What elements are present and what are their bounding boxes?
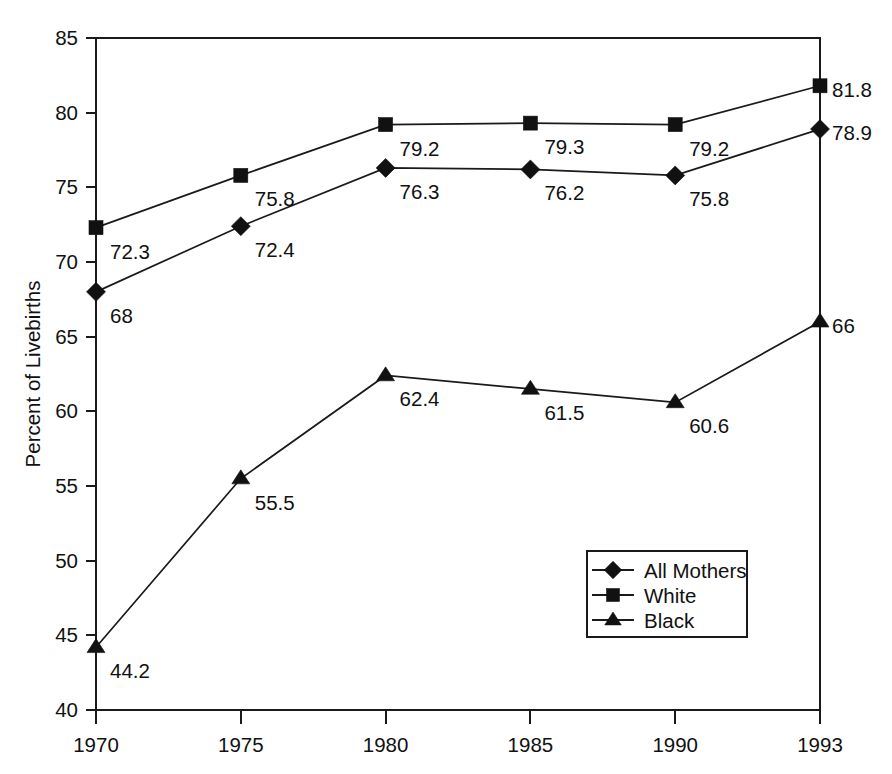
y-tick-label-50: 50 bbox=[55, 549, 78, 572]
point-label: 76.3 bbox=[400, 180, 440, 203]
y-axis-ticks bbox=[86, 38, 96, 710]
y-tick-label-85: 85 bbox=[55, 26, 78, 49]
point-label: 60.6 bbox=[689, 414, 729, 437]
square-marker-icon bbox=[89, 221, 103, 235]
x-tick-label-1990: 1990 bbox=[652, 733, 698, 756]
x-tick-label-1980: 1980 bbox=[363, 733, 409, 756]
diamond-marker-icon bbox=[231, 217, 250, 236]
legend-label-white[interactable]: White bbox=[644, 584, 696, 607]
x-axis-tick-labels: 197019751980198519901993 bbox=[73, 733, 843, 756]
point-label: 81.8 bbox=[832, 78, 872, 101]
point-label: 61.5 bbox=[544, 401, 584, 424]
x-tick-label-1985: 1985 bbox=[508, 733, 554, 756]
y-axis-tick-labels: 85807570656055504540 bbox=[55, 26, 78, 721]
diamond-marker-icon bbox=[376, 158, 395, 177]
line-chart: 85807570656055504540 1970197519801985199… bbox=[0, 0, 892, 774]
point-label: 76.2 bbox=[544, 181, 584, 204]
point-label: 44.2 bbox=[110, 659, 150, 682]
point-label: 78.9 bbox=[832, 121, 872, 144]
y-axis-title: Percent of Livebirths bbox=[21, 281, 44, 468]
square-marker-icon bbox=[813, 79, 827, 93]
chart-legend[interactable]: All MothersWhiteBlack bbox=[587, 551, 747, 637]
triangle-marker-icon bbox=[232, 470, 250, 484]
square-marker-icon bbox=[607, 589, 620, 602]
y-tick-label-65: 65 bbox=[55, 325, 78, 348]
y-tick-label-55: 55 bbox=[55, 474, 78, 497]
square-marker-icon bbox=[379, 118, 393, 132]
x-tick-label-1970: 1970 bbox=[73, 733, 119, 756]
y-tick-label-40: 40 bbox=[55, 698, 78, 721]
y-tick-label-70: 70 bbox=[55, 250, 78, 273]
square-marker-icon bbox=[234, 168, 248, 182]
chart-container: 85807570656055504540 1970197519801985199… bbox=[0, 0, 892, 774]
point-label: 75.8 bbox=[255, 187, 295, 210]
point-label: 75.8 bbox=[689, 187, 729, 210]
legend-label-all-mothers[interactable]: All Mothers bbox=[644, 559, 747, 582]
diamond-marker-icon bbox=[87, 282, 106, 301]
y-tick-label-75: 75 bbox=[55, 175, 78, 198]
x-tick-label-1975: 1975 bbox=[218, 733, 264, 756]
square-marker-icon bbox=[668, 118, 682, 132]
legend-label-black[interactable]: Black bbox=[644, 609, 695, 632]
point-label: 72.4 bbox=[255, 238, 295, 261]
triangle-marker-icon bbox=[521, 380, 539, 394]
x-tick-label-1993: 1993 bbox=[797, 733, 843, 756]
diamond-marker-icon bbox=[811, 120, 830, 139]
y-tick-label-80: 80 bbox=[55, 101, 78, 124]
triangle-marker-icon bbox=[666, 394, 684, 408]
diamond-marker-icon bbox=[666, 166, 685, 185]
diamond-marker-icon bbox=[521, 160, 540, 179]
point-label: 68 bbox=[110, 304, 133, 327]
square-marker-icon bbox=[523, 116, 537, 130]
point-label: 62.4 bbox=[400, 387, 440, 410]
point-label: 79.2 bbox=[689, 137, 729, 160]
point-label: 72.3 bbox=[110, 240, 150, 263]
y-tick-label-45: 45 bbox=[55, 623, 78, 646]
x-axis-ticks bbox=[96, 710, 820, 724]
point-label: 55.5 bbox=[255, 491, 295, 514]
triangle-marker-icon bbox=[811, 313, 829, 327]
point-label: 66 bbox=[832, 314, 855, 337]
triangle-marker-icon bbox=[377, 367, 395, 381]
point-label: 79.2 bbox=[400, 137, 440, 160]
y-tick-label-60: 60 bbox=[55, 399, 78, 422]
point-label: 79.3 bbox=[544, 135, 584, 158]
